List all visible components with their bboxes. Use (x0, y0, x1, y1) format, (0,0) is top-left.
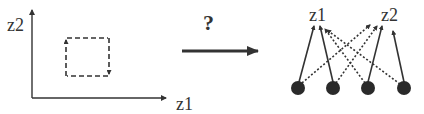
solid-connections (299, 26, 404, 82)
dotted-connections (302, 25, 400, 84)
right-panel: z1 z2 (291, 5, 411, 95)
output-label-z2: z2 (381, 5, 398, 25)
question-mark: ? (203, 10, 214, 35)
input-node-1 (291, 81, 305, 95)
left-panel: z2 z1 (7, 10, 193, 114)
input-node-4 (397, 81, 411, 95)
dashed-cycle-square (66, 38, 109, 76)
input-node-2 (326, 81, 340, 95)
middle-section: ? (182, 10, 258, 51)
output-label-z1: z1 (309, 5, 326, 25)
x-axis-label: z1 (176, 94, 193, 114)
y-axis-label: z2 (7, 15, 24, 35)
input-nodes (291, 81, 411, 95)
diagram-canvas: z2 z1 ? z1 z2 (0, 0, 424, 114)
input-node-3 (361, 81, 375, 95)
